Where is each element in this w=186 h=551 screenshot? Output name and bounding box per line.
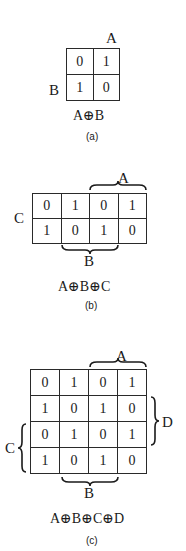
variable-label-c: C <box>5 441 15 456</box>
brace-a-icon <box>89 358 147 368</box>
kmap-cell: 0 <box>118 219 147 244</box>
kmap-cell: 1 <box>60 422 89 448</box>
kmap-cell: 0 <box>61 219 90 244</box>
caption-b: (b) <box>85 301 97 311</box>
kmap-cell: 1 <box>67 75 94 101</box>
kmap-cell: 0 <box>118 396 147 422</box>
kmap-cell: 1 <box>89 448 118 474</box>
variable-label-d: D <box>162 415 173 430</box>
variable-label-b: B <box>49 83 59 98</box>
kmap-cell: 1 <box>118 194 147 219</box>
variable-label-a: A <box>106 31 117 46</box>
brace-d-icon <box>150 396 160 446</box>
kmap-cell: 0 <box>31 422 60 448</box>
kmap-cell: 0 <box>60 448 89 474</box>
variable-label-c: C <box>14 211 24 226</box>
variable-label-b: B <box>84 254 94 269</box>
kmap-grid-a: 0 1 1 0 <box>66 48 120 101</box>
kmap-cell: 0 <box>118 448 147 474</box>
caption-a: (a) <box>86 132 98 142</box>
kmap-cell: 1 <box>89 396 118 422</box>
kmap-cell: 1 <box>31 396 60 422</box>
kmap-cell: 1 <box>93 49 120 75</box>
kmap-cell: 1 <box>33 219 62 244</box>
kmap-cell: 0 <box>89 422 118 448</box>
expression-b: A⊕B⊕C <box>58 280 110 294</box>
kmap-cell: 0 <box>93 75 120 101</box>
kmap-cell: 0 <box>67 49 94 75</box>
variable-label-b: B <box>84 486 94 501</box>
brace-a-icon <box>89 181 147 191</box>
kmap-cell: 0 <box>33 194 62 219</box>
kmap-cell: 1 <box>61 194 90 219</box>
kmap-grid-c: 0 1 0 1 1 0 1 0 0 1 0 1 1 0 1 0 <box>30 369 147 474</box>
kmap-cell: 1 <box>90 219 119 244</box>
expression-a: A⊕B <box>73 109 104 123</box>
kmap-cell: 1 <box>118 370 147 396</box>
kmap-cell: 0 <box>90 194 119 219</box>
kmap-cell: 0 <box>31 370 60 396</box>
kmap-cell: 0 <box>60 396 89 422</box>
kmap-grid-b: 0 1 0 1 1 0 1 0 <box>32 193 147 244</box>
kmap-cell: 1 <box>60 370 89 396</box>
brace-c-icon <box>17 423 27 473</box>
expression-c: A⊕B⊕C⊕D <box>50 512 124 526</box>
kmap-cell: 1 <box>118 422 147 448</box>
kmap-cell: 0 <box>89 370 118 396</box>
kmap-cell: 1 <box>31 448 60 474</box>
caption-c: (c) <box>86 536 98 546</box>
